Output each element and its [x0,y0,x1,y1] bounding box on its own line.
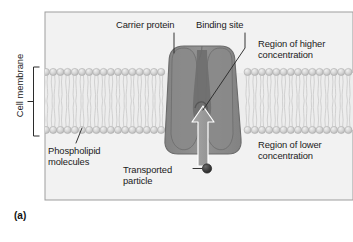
phospholipid-head [86,68,93,75]
phospholipid-head [302,126,309,133]
phospholipid-head [42,68,49,75]
phospholipid-head [287,68,294,75]
phospholipid-head [129,126,136,133]
phospholipid-head [143,68,150,75]
phospholipid-head [273,68,280,75]
phospholipid-head [50,126,57,133]
label-phospholipid-molecules: Phospholipid molecules [48,146,101,167]
phospholipid-head [107,68,114,75]
phospholipid-head [294,126,301,133]
phospholipid-head [143,126,150,133]
phospholipid-head [294,68,301,75]
phospholipid-head [266,68,273,75]
phospholipid-head [107,126,114,133]
phospholipid-head [280,126,287,133]
transported-particle-sphere [202,164,211,173]
phospholipid-head [338,68,345,75]
phospholipid-head [86,126,93,133]
phospholipid-head [100,68,107,75]
phospholipid-head [273,126,280,133]
phospholipid-head [330,126,337,133]
phospholipid-head [129,68,136,75]
phospholipid-head [345,68,352,75]
phospholipid-head [42,126,49,133]
phospholipid-head [158,68,165,75]
phospholipid-head [57,68,64,75]
phospholipid-head [280,68,287,75]
phospholipid-head [93,68,100,75]
phospholipid-head [78,68,85,75]
phospholipid-head [100,126,107,133]
label-binding-site: Binding site [196,20,243,31]
phospholipid-head [251,68,258,75]
phospholipid-head [316,68,323,75]
phospholipid-head [323,126,330,133]
phospholipid-head [64,68,71,75]
cell-membrane-transport-diagram [0,0,353,242]
phospholipid-head [71,68,78,75]
phospholipid-head [323,68,330,75]
phospholipid-head [287,126,294,133]
phospholipid-head [338,126,345,133]
phospholipid-head [71,126,78,133]
phospholipid-head [114,68,121,75]
phospholipid-head [78,126,85,133]
cell-membrane-bracket [28,67,39,136]
phospholipid-head [330,68,337,75]
phospholipid-head [122,68,129,75]
phospholipid-head [150,126,157,133]
phospholipid-head [258,68,265,75]
figure-panel-a: Carrier protein Binding site Region of h… [0,0,353,242]
label-region-higher-concentration: Region of higher concentration [258,39,325,60]
phospholipid-head [244,126,251,133]
phospholipid-head [136,68,143,75]
phospholipid-head [302,68,309,75]
phospholipid-head [309,126,316,133]
phospholipid-head [258,126,265,133]
label-cell-membrane: Cell membrane [14,51,25,121]
phospholipid-head [158,126,165,133]
phospholipid-head [251,126,258,133]
phospholipid-head [114,126,121,133]
phospholipid-head [93,126,100,133]
phospholipid-head [122,126,129,133]
phospholipid-head [150,68,157,75]
phospholipid-head [345,126,352,133]
panel-letter: (a) [14,210,26,221]
label-carrier-protein: Carrier protein [116,20,174,31]
label-transported-particle: Transported particle [123,165,172,186]
label-region-lower-concentration: Region of lower concentration [258,140,322,161]
phospholipid-head [309,68,316,75]
phospholipid-head [50,68,57,75]
phospholipid-head [266,126,273,133]
phospholipid-head [64,126,71,133]
phospholipid-head [57,126,64,133]
phospholipid-head [136,126,143,133]
phospholipid-head [316,126,323,133]
phospholipid-head [244,68,251,75]
